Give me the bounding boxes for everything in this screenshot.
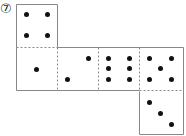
pip [169, 56, 174, 61]
pip [147, 56, 152, 61]
pip [158, 111, 163, 116]
die-face-bottom-three [140, 91, 183, 134]
die-face-two [58, 48, 98, 90]
pip [65, 77, 70, 82]
pip [147, 77, 152, 82]
pip [169, 77, 174, 82]
pip [169, 122, 174, 127]
pip [106, 77, 111, 82]
die-face-six [99, 48, 139, 90]
pip [24, 12, 29, 17]
pip [127, 56, 132, 61]
die-face-top-four [17, 5, 57, 47]
die-face-five [140, 48, 183, 90]
pip [45, 33, 50, 38]
pip [158, 66, 163, 71]
die-face-one [17, 48, 57, 90]
pip [24, 33, 29, 38]
pip [45, 12, 50, 17]
pip [106, 66, 111, 71]
pip [34, 67, 39, 72]
pip [106, 56, 111, 61]
pip [127, 77, 132, 82]
pip [147, 100, 152, 105]
pip [127, 66, 132, 71]
pip [86, 56, 91, 61]
